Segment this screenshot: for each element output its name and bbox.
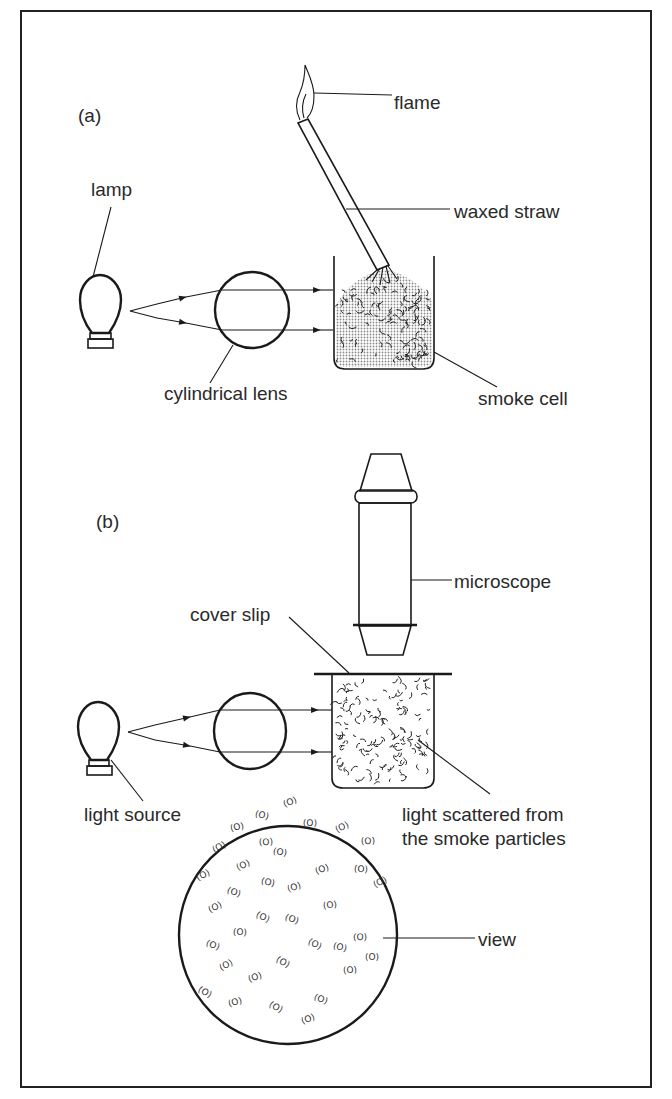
smoke-particle-glyph: (O) [354, 864, 369, 875]
smoke-particle [370, 715, 373, 717]
view-label: view [478, 929, 516, 950]
smoke-particle [400, 770, 402, 774]
smoke-particle [398, 690, 400, 694]
smoke-particle-glyph: (O) [205, 938, 222, 952]
smoke-particle [335, 723, 341, 726]
smoke-particle-glyph: (O) [353, 932, 367, 942]
smoke-particle [375, 754, 378, 757]
smoke-particle [370, 760, 374, 764]
smoke-particle [393, 679, 398, 683]
smoke-particle [345, 770, 349, 776]
smoke-particle [415, 714, 421, 716]
smoke-particle-glyph: (O) [282, 795, 299, 809]
cylindrical-lens-b [214, 693, 286, 769]
smoke-particle [380, 766, 386, 768]
smoke-particle [399, 710, 404, 715]
smoke-particle [361, 749, 365, 756]
smoke-particle [377, 740, 383, 745]
smoke-particle [355, 682, 358, 687]
smoke-particle [416, 736, 421, 737]
smoke-particle [375, 773, 379, 780]
flame-icon [297, 65, 314, 120]
lamp-icon [80, 275, 121, 348]
smoke-particle [366, 754, 369, 755]
smoke-particle [366, 709, 370, 711]
smoke-particle [407, 740, 411, 746]
smoke-particle-glyph: (O) [259, 837, 274, 848]
smoke-particle [337, 758, 341, 763]
smoke-particle [337, 688, 344, 692]
smoke-particle [416, 764, 418, 770]
light-source-icon [78, 702, 119, 775]
smoke-particle [353, 735, 356, 737]
light-rays-a [130, 290, 333, 330]
smoke-particle-glyph: (O) [361, 836, 376, 847]
figure-frame [21, 11, 651, 1087]
lens-leader-line [210, 345, 233, 383]
smoke-particle-glyph: (O) [322, 899, 337, 910]
smoke-particle [346, 684, 351, 686]
microscope-icon [353, 454, 417, 655]
smoke-particle-glyph: (O) [210, 839, 227, 854]
smoke-particle [349, 710, 351, 715]
scattered-light-leader-line [418, 740, 490, 794]
smoke-particle [389, 729, 393, 736]
smoke-particle [361, 679, 363, 684]
smoke-particle [397, 702, 398, 706]
smoke-particle [401, 743, 406, 744]
part-b: (b) microscope cover slip light scattere… [78, 454, 566, 1044]
light-source-leader-line [111, 760, 143, 801]
smoke-particle [333, 756, 336, 758]
smoke-particle [395, 753, 400, 757]
part-b-label: (b) [96, 511, 119, 532]
cover-slip-label: cover slip [190, 604, 270, 625]
smoke-particle-glyph: (O) [303, 818, 317, 828]
brownian-motion-diagram: (a) lamp cylindrical lens [0, 0, 672, 1099]
smoke-particle [356, 712, 361, 717]
smoke-particle [421, 693, 427, 695]
smoke-particle [336, 734, 341, 736]
smoke-particle [342, 290, 345, 293]
smoke-particle [350, 704, 355, 706]
smoke-particle [400, 739, 403, 741]
flame-leader-line [314, 93, 392, 95]
smoke-particle [400, 727, 404, 732]
smoke-particle [400, 700, 403, 701]
light-source-label: light source [84, 804, 181, 825]
smoke-particle [383, 719, 387, 722]
smoke-cell-leader-line [434, 352, 497, 387]
smoke-particle [389, 779, 390, 782]
smoke-particle-glyph: (O) [206, 899, 223, 914]
smoke-particle-glyph: (O) [274, 954, 291, 970]
cover-slip-leader-line [289, 617, 349, 673]
smoke-particle [395, 748, 403, 751]
smoke-particle [415, 750, 416, 753]
lamp-label: lamp [91, 179, 132, 200]
smoke-particle [398, 676, 401, 684]
scattered-light-label-line2: the smoke particles [402, 828, 566, 849]
smoke-particle [417, 684, 419, 690]
cylindrical-lens-label: cylindrical lens [164, 383, 288, 404]
smoke-particle-glyph: (O) [227, 995, 243, 1008]
smoke-particle [340, 708, 344, 711]
smoke-particle-glyph: (O) [254, 808, 270, 821]
smoke-particle [339, 767, 342, 770]
smoke-particle [419, 718, 421, 720]
smoke-particle-glyph: (O) [332, 940, 348, 953]
waxed-straw [298, 119, 397, 285]
smoke-particle-glyph: (O) [333, 819, 350, 834]
smoke-particle-glyph: (O) [235, 858, 252, 873]
smoke-particle [419, 754, 425, 757]
lamp-leader-line [93, 207, 111, 277]
smoke-particle [345, 728, 348, 729]
smoke-particle-glyph: (O) [314, 862, 331, 876]
smoke-particle [392, 693, 397, 698]
smoke-particle [425, 683, 430, 689]
smoke-particle [407, 738, 413, 740]
smoke-particle-glyph: (O) [217, 957, 234, 972]
smoke-cell-a [334, 256, 434, 369]
smoke-particle [347, 740, 348, 744]
smoke-particle-glyph: (O) [365, 952, 379, 962]
smoke-particle [363, 715, 365, 721]
smoke-particle-glyph: (O) [226, 885, 243, 899]
